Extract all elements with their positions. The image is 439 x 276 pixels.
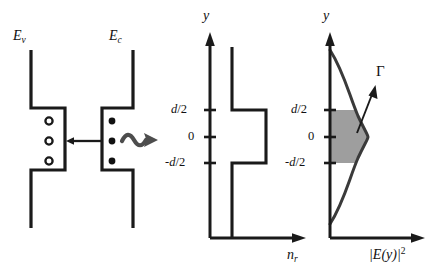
intensity-tick-label-d-over-2: d/2 <box>291 103 307 116</box>
hole-markers <box>45 117 52 164</box>
band-diagram-group <box>31 50 158 228</box>
refractive-index-group <box>204 32 306 243</box>
confinement-factor-arrow-icon <box>357 85 378 133</box>
electron-marker <box>109 118 116 125</box>
conduction-band-label: Ec <box>109 29 122 45</box>
index-y-axis-arrowhead <box>205 32 215 46</box>
hole-marker <box>45 137 52 144</box>
conduction-band-edge <box>102 50 133 228</box>
confinement-shaded-region <box>330 110 378 163</box>
intensity-x-axis-arrowhead <box>411 233 425 243</box>
electron-markers <box>109 118 116 165</box>
intensity-y-axis-label: y <box>323 9 329 23</box>
electron-marker <box>109 138 116 145</box>
intensity-tick-label-zero: 0 <box>308 130 314 143</box>
figure-canvas <box>0 0 439 276</box>
hole-marker <box>45 117 52 124</box>
intensity-tick-label-neg-d-over-2: -d/2 <box>285 156 305 169</box>
electron-marker <box>109 158 116 165</box>
index-y-axis-label: y <box>203 9 209 23</box>
index-x-axis-label: nr <box>287 248 298 264</box>
index-x-axis-arrowhead <box>292 233 306 243</box>
photon-squiggly-arrow-icon <box>122 133 158 147</box>
valence-band-label: Ev <box>13 29 26 45</box>
index-step-curve <box>232 47 266 238</box>
recombination-left-arrow-icon <box>66 137 101 145</box>
index-tick-label-zero: 0 <box>188 130 194 143</box>
index-tick-label-d-over-2: d/2 <box>171 103 187 116</box>
index-tick-label-neg-d-over-2: -d/2 <box>165 156 185 169</box>
figure-root: Ev Ec y nr d/2 0 -d/2 y |E(y)|2 d/2 0 -d… <box>0 0 439 276</box>
confinement-factor-label: Γ <box>376 64 385 79</box>
intensity-group <box>324 32 425 243</box>
intensity-y-axis-arrowhead <box>325 32 335 46</box>
hole-marker <box>45 157 52 164</box>
intensity-x-axis-label: |E(y)|2 <box>369 247 406 262</box>
